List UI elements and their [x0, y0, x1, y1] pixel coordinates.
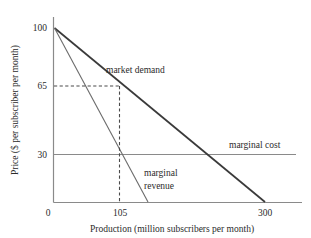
marginal-revenue-label-line2: revenue — [144, 181, 174, 191]
y-tick-label-100: 100 — [33, 23, 48, 33]
x-axis-title: Production (million subscribers per mont… — [90, 224, 254, 235]
y-tick-label-65: 65 — [38, 81, 48, 91]
chart-figure: 100 65 30 0 105 300 market demand margin… — [0, 0, 311, 238]
x-tick-label-0: 0 — [46, 208, 51, 218]
x-tick-label-300: 300 — [258, 208, 273, 218]
x-tick-label-105: 105 — [113, 208, 128, 218]
y-axis-title: Price ($ per subscriber per month) — [10, 45, 21, 175]
market-demand-label: market demand — [106, 65, 165, 75]
economics-line-chart: 100 65 30 0 105 300 market demand margin… — [0, 0, 311, 238]
y-tick-label-30: 30 — [38, 150, 48, 160]
marginal-revenue-curve — [55, 28, 149, 202]
marginal-cost-label: marginal cost — [229, 140, 281, 150]
marginal-revenue-label-line1: marginal — [144, 168, 178, 178]
